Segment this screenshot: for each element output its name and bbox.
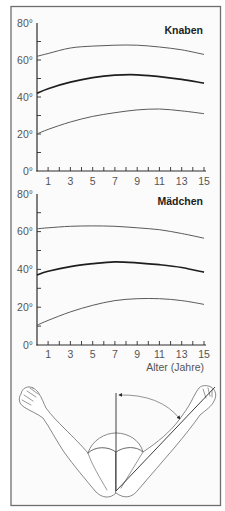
y-tick-label: 20° <box>17 128 33 140</box>
x-tick-label: 3 <box>67 348 73 360</box>
x-tick-label: 15 <box>198 175 210 187</box>
figure: 80° 60° 40° 20° 0° 1 3 5 7 9 11 13 15 Kn… <box>0 0 225 511</box>
x-tick-label: 3 <box>67 175 73 187</box>
y-tick-label: 60° <box>17 225 33 237</box>
y-tick-label: 0° <box>23 339 33 351</box>
x-tick-label: 5 <box>90 348 96 360</box>
x-tick-label: 1 <box>45 348 51 360</box>
panel-title: Knaben <box>164 24 203 36</box>
x-tick-label: 11 <box>154 175 165 187</box>
x-tick-label: 7 <box>112 348 118 360</box>
y-tick-label: 40° <box>17 91 33 103</box>
x-tick-label: 7 <box>112 175 118 187</box>
x-tick-label: 13 <box>176 175 188 187</box>
y-tick-label: 80° <box>17 17 33 29</box>
x-tick-label: 1 <box>45 175 51 187</box>
y-tick-label: 80° <box>17 188 33 200</box>
x-axis-title: Alter (Jahre) <box>146 361 204 373</box>
panel-title: Mädchen <box>157 195 203 207</box>
x-tick-label: 13 <box>176 348 188 360</box>
x-tick-label: 9 <box>134 348 140 360</box>
x-tick-label: 5 <box>90 175 96 187</box>
y-tick-label: 0° <box>23 165 33 177</box>
y-tick-label: 40° <box>17 263 33 275</box>
x-tick-label: 11 <box>154 348 165 360</box>
x-tick-label: 9 <box>134 175 140 187</box>
y-tick-label: 20° <box>17 301 33 313</box>
y-tick-label: 60° <box>17 54 33 66</box>
x-tick-label: 15 <box>198 348 210 360</box>
